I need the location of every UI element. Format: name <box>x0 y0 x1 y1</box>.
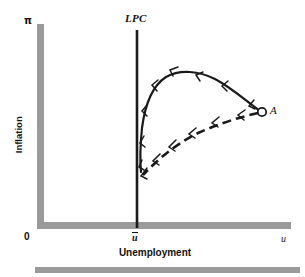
x-axis-title: Unemployment <box>40 248 270 258</box>
natural-rate-tick-label-text: u <box>132 233 138 243</box>
bottom-divider-rule <box>35 267 300 273</box>
y-axis-bar <box>37 24 44 229</box>
lpc-line-label: LPC <box>125 13 147 24</box>
y-axis-top-symbol: π <box>24 16 32 26</box>
point-a-marker <box>258 108 266 116</box>
plot-canvas <box>0 0 305 277</box>
dashed-adjustment-path <box>143 113 258 175</box>
solid-adjustment-path <box>140 72 260 172</box>
y-axis-title: Inflation <box>14 100 24 170</box>
natural-rate-tick-label: u <box>132 233 138 243</box>
phillips-curve-figure: π 0 u u LPC A Inflation Unemployment <box>0 0 305 277</box>
point-a-label: A <box>270 105 277 116</box>
origin-label: 0 <box>24 232 30 242</box>
x-axis-bar <box>37 222 291 229</box>
x-axis-end-symbol: u <box>281 234 286 244</box>
